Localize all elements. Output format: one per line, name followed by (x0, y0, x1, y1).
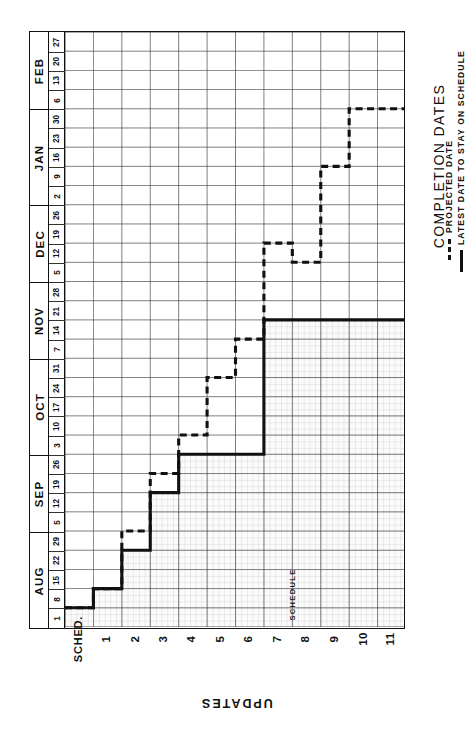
date-tick-text: 20 (52, 57, 61, 66)
date-tick-text: 1 (53, 617, 62, 622)
update-tick-label: SCHED. (72, 616, 84, 662)
date-tick-aug-15: 15 (49, 571, 65, 590)
month-label-nov: NOV (30, 283, 49, 360)
date-tick-text: 9 (53, 175, 62, 180)
month-label-text: AUG (34, 566, 46, 595)
date-tick-text: 15 (52, 575, 61, 584)
legend-item-latest-date-label: LATEST DATE TO STAY ON SCHEDULE (456, 50, 466, 245)
date-tick-text: 13 (52, 76, 61, 85)
date-tick-nov-21: 21 (49, 302, 65, 321)
month-label-jan: JAN (30, 110, 49, 206)
date-tick-feb-20: 20 (49, 53, 65, 72)
date-tick-sep-12: 12 (49, 494, 65, 513)
date-tick-dec-26: 26 (49, 206, 65, 225)
legend-item-projected-date-label: PROJECTED DATE (444, 140, 454, 233)
update-tick-label: 5 (214, 636, 226, 643)
chart-plot-block: FEBJANDECNOVOCTSEPAUG 272013630231692261… (29, 31, 405, 629)
date-tick-text: 19 (52, 479, 61, 488)
month-label-dec: DEC (30, 206, 49, 283)
updates-axis-title: UPDATES (0, 690, 472, 716)
date-tick-text: 19 (52, 230, 61, 239)
solid-line-swatch-icon (456, 250, 466, 272)
date-tick-text: 12 (52, 499, 61, 508)
date-tick-text: 14 (52, 326, 61, 335)
month-label-text: NOV (34, 307, 46, 335)
month-label-text: FEB (34, 58, 46, 84)
legend: COMPLETION DATES LATEST DATE TO STAY ON … (406, 28, 472, 328)
date-tick-text: 2 (53, 194, 62, 199)
date-tick-dec-19: 19 (49, 225, 65, 244)
update-tick-label: 9 (328, 636, 340, 643)
month-axis-column: FEBJANDECNOVOCTSEPAUG (30, 32, 49, 628)
date-tick-aug-1: 1 (49, 609, 65, 628)
update-tick-1: 1 (92, 633, 120, 685)
date-tick-text: 26 (52, 211, 61, 220)
date-tick-text: 21 (52, 307, 61, 316)
date-tick-text: 27 (52, 38, 61, 47)
date-tick-nov-7: 7 (49, 341, 65, 360)
date-tick-aug-29: 29 (49, 533, 65, 552)
legend-item-projected-date: PROJECTED DATE (441, 50, 457, 260)
date-tick-text: 12 (52, 249, 61, 258)
date-tick-jan-2: 2 (49, 187, 65, 206)
month-label-text: DEC (34, 230, 46, 258)
date-tick-text: 5 (53, 271, 62, 276)
date-tick-text: 30 (52, 115, 61, 124)
date-axis-column: 2720136302316922619125282114731241710326… (49, 32, 65, 628)
update-tick-label: 8 (300, 636, 312, 643)
update-tick-8: 8 (291, 633, 319, 685)
plot-area (65, 32, 404, 628)
date-tick-dec-12: 12 (49, 245, 65, 264)
month-label-feb: FEB (30, 34, 49, 111)
date-tick-jan-16: 16 (49, 149, 65, 168)
date-tick-text: 7 (53, 347, 62, 352)
update-tick-sched: SCHED. (64, 633, 92, 685)
date-tick-oct-17: 17 (49, 398, 65, 417)
schedule-completion-chart: FEBJANDECNOVOCTSEPAUG 272013630231692261… (0, 0, 472, 734)
date-tick-text: 17 (52, 403, 61, 412)
date-tick-feb-13: 13 (49, 72, 65, 91)
date-tick-jan-9: 9 (49, 168, 65, 187)
date-tick-text: 5 (53, 520, 62, 525)
date-tick-oct-24: 24 (49, 379, 65, 398)
update-tick-label: 10 (356, 632, 368, 646)
date-tick-aug-8: 8 (49, 590, 65, 609)
date-tick-aug-22: 22 (49, 552, 65, 571)
update-tick-5: 5 (206, 633, 234, 685)
date-tick-sep-26: 26 (49, 456, 65, 475)
update-tick-label: 1 (101, 636, 113, 643)
date-tick-text: 22 (52, 556, 61, 565)
date-tick-text: 16 (52, 153, 61, 162)
update-tick-6: 6 (235, 633, 263, 685)
dashed-line-swatch-icon (444, 238, 454, 260)
month-label-oct: OCT (30, 360, 49, 456)
date-tick-text: 3 (53, 443, 62, 448)
date-tick-text: 29 (52, 537, 61, 546)
date-tick-text: 10 (52, 422, 61, 431)
date-tick-text: 24 (52, 384, 61, 393)
date-tick-oct-3: 3 (49, 437, 65, 456)
update-tick-4: 4 (178, 633, 206, 685)
plot-svg (65, 32, 404, 627)
update-tick-label: 6 (243, 636, 255, 643)
date-tick-sep-19: 19 (49, 475, 65, 494)
month-label-sep: SEP (30, 456, 49, 533)
date-tick-text: 8 (53, 597, 62, 602)
date-tick-feb-27: 27 (49, 34, 65, 53)
update-tick-11: 11 (377, 633, 405, 685)
date-tick-text: 6 (53, 98, 62, 103)
month-label-aug: AUG (30, 533, 49, 629)
date-tick-jan-23: 23 (49, 129, 65, 148)
update-tick-label: 4 (186, 636, 198, 643)
month-label-text: SEP (34, 480, 46, 506)
update-tick-label: 11 (385, 633, 397, 646)
month-label-text: OCT (34, 393, 46, 421)
date-tick-nov-28: 28 (49, 283, 65, 302)
updates-axis: SCHED.1234567891011 (64, 633, 405, 691)
update-tick-label: 2 (129, 636, 141, 643)
update-tick-3: 3 (149, 633, 177, 685)
update-tick-label: 7 (271, 636, 283, 643)
update-tick-label: 3 (157, 636, 169, 643)
update-tick-7: 7 (263, 633, 291, 685)
update-tick-2: 2 (121, 633, 149, 685)
